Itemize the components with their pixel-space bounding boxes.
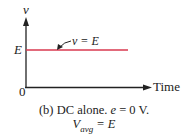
y-axis-label: v: [23, 3, 29, 16]
x-axis-label: Time: [153, 80, 180, 93]
x-axis-arrow-icon: [143, 85, 152, 91]
caption-var-v: V: [73, 117, 81, 131]
caption-line-2: Vavg = E: [0, 118, 188, 136]
annotation-leader: [60, 41, 71, 47]
caption-equals-e: = E: [93, 117, 115, 131]
annotation-label: v = E: [72, 35, 99, 48]
caption-suffix: = 0 V.: [116, 103, 149, 117]
caption-line-1: (b) DC alone. e = 0 V.: [0, 104, 188, 117]
caption-sub-avg: avg: [80, 124, 93, 134]
y-axis-arrow-icon: [23, 17, 29, 26]
level-label: E: [14, 43, 22, 56]
caption-prefix: (b) DC alone.: [39, 103, 111, 117]
origin-label: 0: [19, 85, 26, 98]
